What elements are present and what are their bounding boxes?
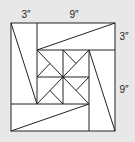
dimension-label-right-top: 3″ xyxy=(119,32,128,42)
center-dot xyxy=(62,76,65,79)
dimension-label-top-left: 3″ xyxy=(21,10,30,20)
dimension-label-right-bottom: 9″ xyxy=(119,85,128,95)
dimension-label-top-right: 9″ xyxy=(69,10,78,20)
quilt-block-diagram xyxy=(0,0,135,142)
